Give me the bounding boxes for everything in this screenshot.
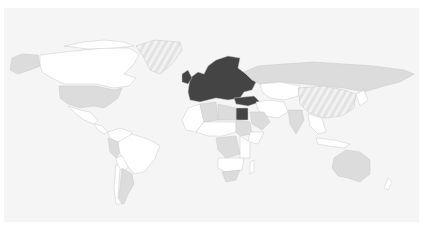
region-japan-korea[interactable] [356, 90, 368, 106]
region-kazakhstan[interactable] [260, 82, 300, 100]
region-canada-arctic[interactable] [64, 40, 134, 49]
region-europe[interactable] [188, 56, 256, 102]
region-egypt[interactable] [236, 108, 248, 120]
region-south-africa[interactable] [222, 170, 240, 182]
region-india[interactable] [288, 110, 304, 134]
region-madagascar[interactable] [250, 160, 254, 174]
region-sahel[interactable] [196, 122, 236, 136]
region-dr-congo[interactable] [216, 136, 240, 158]
region-greenland[interactable] [136, 40, 182, 74]
region-argentina[interactable] [118, 168, 134, 204]
region-turkey[interactable] [234, 96, 260, 106]
world-map-chart[interactable] [4, 8, 419, 222]
region-indonesia[interactable] [316, 138, 350, 148]
region-new-zealand[interactable] [384, 178, 392, 190]
region-central-america[interactable] [94, 124, 108, 134]
region-mexico[interactable] [68, 106, 98, 124]
region-china-mongolia[interactable] [298, 86, 356, 118]
region-libya[interactable] [218, 104, 236, 120]
region-ethiopia-somalia[interactable] [248, 132, 264, 144]
region-alaska[interactable] [10, 54, 40, 74]
world-map-svg[interactable] [4, 8, 419, 222]
region-australia[interactable] [332, 150, 370, 182]
region-canada[interactable] [40, 48, 139, 88]
region-united-states[interactable] [59, 86, 122, 108]
